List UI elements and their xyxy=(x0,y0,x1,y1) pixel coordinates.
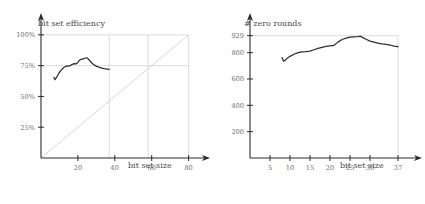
x-tick-label: 15 xyxy=(306,164,314,172)
reference-diagonal-line xyxy=(41,35,189,158)
reference-diagonal xyxy=(41,35,189,158)
y-tick-label: 400 xyxy=(231,102,244,110)
x-axis-title-left: bit set size xyxy=(128,161,172,170)
data-curve-left xyxy=(54,58,109,80)
chart-panel-zero-rounds: 5101520253037200400600800929 # zero roun… xyxy=(212,0,425,204)
y-tick-label: 100% xyxy=(16,31,35,39)
figure-container: 2040608025%50%75%100% bit set efficiency… xyxy=(0,0,425,204)
y-tick-label: 929 xyxy=(231,32,244,40)
x-tick-label: 5 xyxy=(268,164,272,172)
y-tick-label: 800 xyxy=(231,49,244,57)
data-series-line xyxy=(282,36,398,61)
x-axis-title-right: bit set size xyxy=(340,161,384,170)
axes-right xyxy=(247,13,422,161)
tick-labels-right: 5101520253037200400600800929 xyxy=(231,32,402,172)
tick-labels-left: 2040608025%50%75%100% xyxy=(16,31,193,172)
x-tick-label: 10 xyxy=(286,164,294,172)
y-tick-label: 600 xyxy=(231,75,244,83)
bit-set-efficiency-plot: 2040608025%50%75%100% bit set efficiency… xyxy=(0,0,212,204)
y-tick-label: 25% xyxy=(20,124,35,132)
y-axis-title-right: # zero rounds xyxy=(244,19,302,28)
y-tick-label: 200 xyxy=(231,128,244,136)
y-tick-label: 50% xyxy=(20,93,35,101)
y-axis-title-left: bit set efficiency xyxy=(38,19,105,28)
data-series-line xyxy=(54,58,109,80)
data-curve-right xyxy=(282,36,398,61)
gridlines-right xyxy=(250,36,398,158)
chart-panel-bit-set-efficiency: 2040608025%50%75%100% bit set efficiency… xyxy=(0,0,212,204)
x-tick-label: 20 xyxy=(74,164,82,172)
tick-marks-right xyxy=(247,36,398,161)
x-tick-label: 37 xyxy=(394,164,402,172)
x-tick-label: 80 xyxy=(184,164,192,172)
x-tick-label: 40 xyxy=(111,164,119,172)
zero-rounds-plot: 5101520253037200400600800929 # zero roun… xyxy=(212,0,425,204)
y-tick-label: 75% xyxy=(20,62,35,70)
x-tick-label: 20 xyxy=(326,164,334,172)
